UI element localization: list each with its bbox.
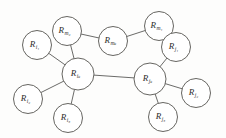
node-mk[interactable]: Rmₖ <box>99 27 128 56</box>
node-ik[interactable]: Riₖ <box>62 58 94 90</box>
node-j3[interactable]: Rj₃ <box>149 103 178 132</box>
edge-mk-m1 <box>127 31 145 37</box>
node-subscript-m2: m₂ <box>64 30 70 36</box>
node-subscript-i3: i₃ <box>67 117 71 123</box>
graph-canvas: Rm₂RmₖRm₁Ri₁Rj₁RiₖRjₖRi₂Rj₂Ri₃Rj₃ <box>0 0 226 138</box>
node-m2[interactable]: Rm₂ <box>53 17 82 46</box>
edge-ik-jk <box>94 75 134 78</box>
graph-diagram: Rm₂RmₖRm₁Ri₁Rj₁RiₖRjₖRi₂Rj₂Ri₃Rj₃ <box>0 0 226 138</box>
node-i1[interactable]: Ri₁ <box>23 31 52 60</box>
edge-i1-ik <box>49 53 65 64</box>
node-subscript-mk: mₖ <box>110 40 117 46</box>
edge-j1-jk <box>160 58 167 66</box>
node-i3[interactable]: Ri₃ <box>54 104 83 133</box>
node-subscript-j1: j₁ <box>174 46 179 52</box>
node-subscript-m1: m₁ <box>156 25 162 31</box>
nodes-group: Rm₂RmₖRm₁Ri₁Rj₁RiₖRjₖRi₂Rj₂Ri₃Rj₃ <box>14 12 211 133</box>
node-jk[interactable]: Rjₖ <box>134 63 166 95</box>
node-subscript-j3: j₃ <box>161 116 166 122</box>
node-subscript-i1: i₁ <box>36 44 40 50</box>
node-j1[interactable]: Rj₁ <box>162 33 191 62</box>
edge-jk-j2 <box>165 84 182 89</box>
node-subscript-j2: j₂ <box>194 92 199 98</box>
edge-m2-mk <box>81 34 99 38</box>
node-subscript-i2: i₂ <box>27 98 31 104</box>
edge-ik-i2 <box>41 81 64 92</box>
node-i2[interactable]: Ri₂ <box>14 85 43 114</box>
node-j2[interactable]: Rj₂ <box>182 79 211 108</box>
edge-jk-j3 <box>155 94 158 103</box>
edge-ik-i3 <box>71 90 74 104</box>
edge-m2-ik <box>71 45 74 58</box>
